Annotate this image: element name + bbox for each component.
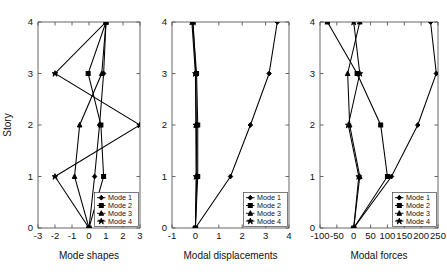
- x-tick-label: 100: [379, 230, 395, 241]
- y-tick-label: 0: [162, 222, 167, 233]
- data-point-marker: [99, 123, 103, 127]
- x-tick-label: -1: [68, 230, 76, 241]
- y-axis-title: Story: [2, 113, 13, 136]
- plot-modal-forces: -100-5005010015020025001234Modal forcesM…: [298, 0, 447, 276]
- x-tick-label: -1: [168, 230, 176, 241]
- data-point-marker: [379, 123, 383, 127]
- data-point-marker: [275, 20, 279, 25]
- x-tick-label: 0: [351, 230, 356, 241]
- x-tick-label: 1: [103, 230, 108, 241]
- x-tick-label: 3: [137, 230, 142, 241]
- legend[interactable]: Mode 1Mode 2Mode 3Mode 4: [95, 193, 139, 227]
- x-axis-title: Mode shapes: [59, 250, 119, 261]
- legend-label: Mode 4: [406, 217, 430, 226]
- y-tick-label: 1: [28, 171, 33, 182]
- x-tick-label: 50: [365, 230, 376, 241]
- legend[interactable]: Mode 1Mode 2Mode 3Mode 4: [393, 193, 437, 227]
- data-point-marker: [52, 174, 58, 180]
- data-point-marker: [92, 174, 96, 179]
- x-tick-label: 4: [286, 230, 291, 241]
- data-point-marker: [77, 122, 82, 127]
- x-tick-label: 150: [396, 230, 412, 241]
- data-point-marker: [248, 123, 252, 128]
- panel-mode-shapes: -3-2-1012301234Mode shapesStoryMode 1Mod…: [0, 0, 150, 276]
- y-tick-label: 3: [310, 68, 315, 79]
- y-tick-label: 2: [28, 119, 33, 130]
- y-tick-label: 4: [28, 16, 33, 27]
- data-point-marker: [86, 72, 90, 76]
- data-point-marker: [428, 20, 432, 25]
- x-axis-title: Modal forces: [350, 250, 407, 261]
- modal-analysis-figure: -3-2-1012301234Mode shapesStoryMode 1Mod…: [0, 0, 447, 276]
- y-tick-label: 0: [28, 222, 33, 233]
- x-tick-label: -50: [330, 230, 344, 241]
- data-point-marker: [267, 71, 271, 76]
- x-tick-label: 0: [86, 230, 91, 241]
- x-tick-label: 2: [120, 230, 125, 241]
- legend-label: Mode 4: [257, 217, 281, 226]
- x-tick-label: 200: [413, 230, 429, 241]
- legend-marker: [397, 204, 401, 208]
- legend-marker: [99, 204, 103, 208]
- y-tick-label: 2: [162, 119, 167, 130]
- legend[interactable]: Mode 1Mode 2Mode 3Mode 4: [244, 193, 288, 227]
- data-point-marker: [325, 20, 329, 24]
- x-tick-label: 2: [240, 230, 245, 241]
- y-tick-label: 1: [162, 171, 167, 182]
- x-tick-label: 250: [430, 230, 446, 241]
- x-tick-label: 1: [216, 230, 221, 241]
- x-tick-label: 3: [263, 230, 268, 241]
- data-point-marker: [345, 71, 350, 76]
- panel-modal-displacements: -10123401234Modal displacementsMode 1Mod…: [150, 0, 298, 276]
- x-axis-title: Modal displacements: [184, 250, 278, 261]
- x-tick-label: 0: [193, 230, 198, 241]
- y-tick-label: 3: [162, 68, 167, 79]
- data-point-marker: [385, 175, 389, 179]
- y-tick-label: 2: [310, 119, 315, 130]
- data-point-marker: [416, 123, 420, 128]
- data-point-marker: [102, 175, 106, 179]
- plot-mode-shapes: -3-2-1012301234Mode shapesStoryMode 1Mod…: [0, 0, 150, 276]
- x-tick-label: -2: [51, 230, 59, 241]
- legend-marker: [248, 204, 252, 208]
- y-tick-label: 1: [310, 171, 315, 182]
- y-tick-label: 3: [28, 68, 33, 79]
- data-point-marker: [72, 174, 77, 179]
- y-tick-label: 4: [310, 16, 315, 27]
- panel-modal-forces: -100-5005010015020025001234Modal forcesM…: [298, 0, 447, 276]
- y-tick-label: 0: [310, 222, 315, 233]
- legend-label: Mode 4: [108, 217, 132, 226]
- x-tick-label: -3: [34, 230, 42, 241]
- y-tick-label: 4: [162, 16, 167, 27]
- plot-modal-displacements: -10123401234Modal displacementsMode 1Mod…: [150, 0, 298, 276]
